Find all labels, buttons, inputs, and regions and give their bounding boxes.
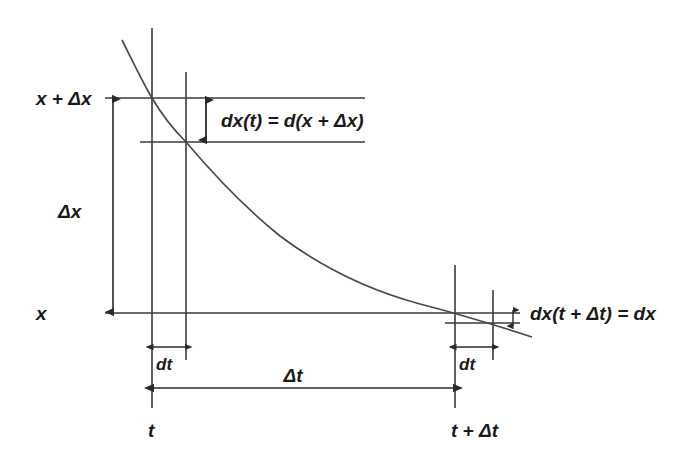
y-axis-label-top: x + Δx [35,88,93,109]
dx-t-plus-delta-t-equation-label: dx(t + Δt) = dx [530,303,657,324]
dt-left-label: dt [156,355,173,374]
x-axis-label-t: t [148,420,155,441]
y-axis-label-bottom: x [35,303,48,324]
delta-t-label: Δt [282,365,303,386]
dt-right-label: dt [459,355,476,374]
x-axis-label-t-plus-delta-t: t + Δt [451,420,499,441]
dx-t-equation-label: dx(t) = d(x + Δx) [221,110,364,131]
derivative-decay-diagram: x + Δx x Δx dx(t) = d(x + Δx) dx(t + Δt)… [0,0,689,466]
diagram-canvas: x + Δx x Δx dx(t) = d(x + Δx) dx(t + Δt)… [0,0,689,466]
delta-x-label: Δx [57,201,83,222]
exponential-decay-curve [122,40,532,337]
